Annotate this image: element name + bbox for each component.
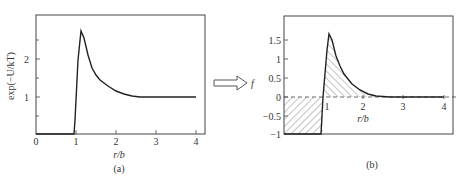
chart-b-ytick-minus-1: −1: [270, 129, 281, 140]
chart-a-x-ticks: [76, 130, 196, 134]
chart-b-ytick-minus-0.5: −0.5: [263, 111, 281, 122]
chart-a-xtick-2: 2: [114, 136, 119, 147]
chart-a-xtick-0: 0: [34, 136, 39, 147]
chart-b: 1.5 1 0.5 0 −0.5 −1 1 2 3 4 r/b (b): [263, 16, 457, 171]
chart-a-frame: [36, 15, 205, 134]
figure-canvas: 1 2 0 1 2 3 4 r/b exp(−U/kT) (a) f: [0, 0, 468, 184]
chart-a-xlabel: r/b: [113, 149, 125, 160]
chart-b-xtick-4: 4: [442, 101, 447, 112]
chart-b-xtick-3: 3: [401, 101, 406, 112]
chart-a-caption: (a): [113, 163, 124, 175]
chart-a-ylabel: exp(−U/kT): [5, 52, 17, 100]
chart-b-ytick-1: 1: [276, 54, 281, 65]
chart-a-ytick-2: 2: [24, 54, 29, 65]
chart-a-xtick-3: 3: [154, 136, 159, 147]
chart-a: 1 2 0 1 2 3 4 r/b exp(−U/kT) (a): [5, 15, 205, 175]
transform-arrow: f: [214, 76, 255, 90]
chart-a-curve: [36, 31, 196, 134]
chart-b-xlabel: r/b: [357, 113, 369, 124]
arrow-icon: [214, 76, 247, 90]
chart-b-hatch-negative: [284, 97, 323, 134]
chart-a-xtick-4: 4: [194, 136, 199, 147]
chart-a-y-ticks: [36, 40, 40, 116]
chart-b-caption: (b): [366, 159, 378, 171]
chart-b-ytick-0: 0: [276, 92, 281, 103]
chart-b-xtick-2: 2: [361, 101, 366, 112]
chart-b-ytick-0.5: 0.5: [269, 73, 282, 84]
chart-a-xtick-1: 1: [74, 136, 79, 147]
chart-b-xtick-1: 1: [325, 101, 330, 112]
chart-a-ytick-1: 1: [24, 92, 29, 103]
arrow-label: f: [251, 78, 255, 89]
chart-b-ytick-1.5: 1.5: [269, 35, 282, 46]
